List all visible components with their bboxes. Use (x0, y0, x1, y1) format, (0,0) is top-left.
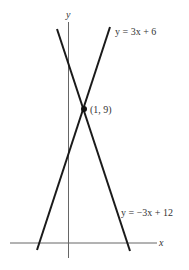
x-axis-label: x (158, 237, 164, 248)
intersection-label: (1, 9) (90, 104, 112, 116)
graph: y x y = 3x + 6 (1, 9) y = −3x + 12 (0, 0, 189, 270)
line1-label: y = 3x + 6 (115, 26, 156, 37)
y-axis-label: y (65, 9, 71, 20)
line2-label: y = −3x + 12 (121, 207, 173, 218)
line-y-3x-plus-6 (37, 27, 110, 250)
intersection-point (81, 106, 87, 112)
line-y-minus-3x-plus-12 (57, 29, 130, 251)
